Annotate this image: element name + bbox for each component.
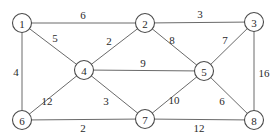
edge-weight-label-4-6: 12: [42, 95, 53, 107]
weighted-graph-diagram: 6352874916123106212 12345678: [0, 0, 280, 140]
edge-3-5: [204, 22, 254, 71]
nodes-layer: 12345678: [13, 13, 264, 130]
edge-2-4: [84, 23, 145, 70]
edge-weight-label-1-6: 4: [13, 66, 19, 78]
edge-1-4: [22, 23, 84, 70]
edge-weight-label-2-3: 3: [197, 8, 203, 20]
node-label: 5: [201, 66, 207, 78]
edge-weight-label-5-8: 6: [219, 95, 225, 107]
node-5: 5: [195, 62, 214, 81]
node-4: 4: [75, 61, 94, 80]
node-8: 8: [245, 111, 264, 130]
edge-weight-label-7-8: 12: [194, 122, 205, 134]
edge-6-7: [22, 119, 145, 120]
node-label: 8: [251, 115, 257, 127]
node-7: 7: [136, 110, 155, 129]
node-label: 1: [19, 18, 25, 30]
edge-2-5: [145, 23, 204, 71]
edge-weight-label-5-7: 10: [169, 94, 181, 106]
edge-weight-label-2-5: 8: [169, 34, 175, 46]
edge-7-8: [145, 119, 254, 120]
node-label: 7: [142, 114, 148, 126]
edge-5-8: [204, 71, 254, 120]
edge-weight-label-3-5: 7: [222, 34, 228, 46]
edge-weight-label-1-2: 6: [80, 9, 86, 21]
edge-2-3: [145, 22, 254, 23]
node-6: 6: [13, 111, 32, 130]
node-1: 1: [13, 14, 32, 33]
edge-4-5: [84, 70, 204, 71]
node-3: 3: [245, 13, 264, 32]
node-label: 3: [251, 17, 257, 29]
node-label: 2: [142, 18, 148, 30]
edge-weight-label-6-7: 2: [80, 122, 86, 134]
edge-weight-label-3-8: 16: [259, 67, 271, 79]
edge-weight-label-2-4: 2: [106, 35, 112, 47]
node-label: 6: [19, 115, 25, 127]
edge-4-6: [22, 70, 84, 120]
edge-weight-label-4-7: 3: [103, 95, 109, 107]
edge-weight-label-1-4: 5: [52, 32, 58, 44]
node-label: 4: [81, 65, 87, 77]
edge-weight-label-4-5: 9: [140, 57, 146, 69]
edge-4-7: [84, 70, 145, 119]
node-2: 2: [136, 14, 155, 33]
